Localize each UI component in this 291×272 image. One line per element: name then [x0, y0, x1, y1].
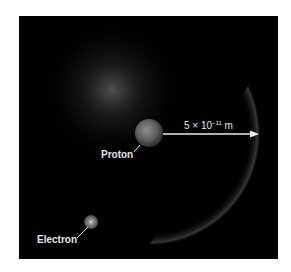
distance-exponent: −11 [212, 120, 222, 126]
electron-sphere [84, 215, 98, 229]
atom-diagram-graphics [19, 16, 278, 259]
proton-sphere [135, 119, 163, 147]
atom-diagram-panel: Proton Electron 5 × 10−11 m [19, 16, 278, 259]
electron-leader-line [77, 227, 88, 238]
distance-unit: m [222, 120, 233, 131]
distance-label: 5 × 10−11 m [184, 120, 233, 131]
electron-label: Electron [37, 234, 77, 245]
proton-label: Proton [101, 149, 133, 160]
distance-base: 5 × 10 [184, 120, 212, 131]
